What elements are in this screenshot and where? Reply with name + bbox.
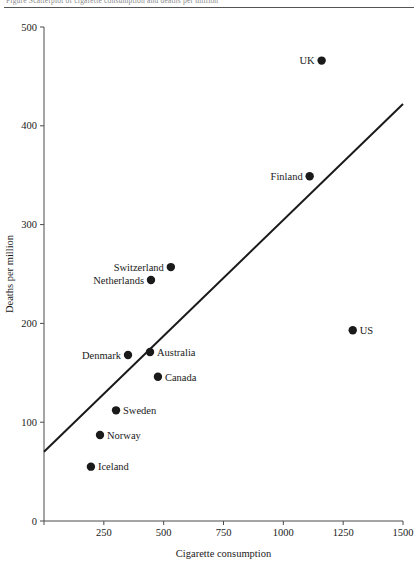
x-tick-label: 250 [96, 527, 112, 538]
figure-container: Figure Scatterplot of cigarette consumpt… [0, 0, 418, 565]
x-tick-label: 1500 [393, 527, 414, 538]
data-point-marker[interactable] [146, 348, 154, 356]
data-point-label: Netherlands [93, 275, 144, 286]
x-tick-label: 1250 [333, 527, 354, 538]
y-tick-label: 300 [21, 219, 37, 230]
data-point-marker[interactable] [112, 406, 120, 414]
data-point-marker[interactable] [147, 276, 155, 284]
x-tick-label: 750 [216, 527, 232, 538]
data-point-marker[interactable] [167, 263, 175, 271]
data-point-marker[interactable] [124, 351, 132, 359]
y-tick-label: 400 [21, 120, 37, 131]
data-point-marker[interactable] [96, 431, 104, 439]
data-point-label: Finland [271, 171, 304, 182]
scatter-plot: 0100200300400500250500750100012501500 UK… [0, 0, 418, 565]
y-tick-label: 500 [21, 22, 37, 33]
data-point-label: Iceland [98, 461, 130, 472]
data-point-label: Norway [107, 430, 142, 441]
data-point-label: Switzerland [114, 262, 165, 273]
x-tick-label: 1000 [273, 527, 294, 538]
data-point-marker[interactable] [87, 462, 95, 470]
data-points-group: UKFinlandSwitzerlandNetherlandsUSAustral… [82, 55, 373, 472]
data-point-label: Canada [165, 372, 197, 383]
data-point-marker[interactable] [154, 373, 162, 381]
x-axis-title: Cigarette consumption [176, 548, 272, 559]
data-point-marker[interactable] [305, 172, 313, 180]
x-tick-label: 500 [156, 527, 172, 538]
data-point-label: UK [299, 55, 315, 66]
data-point-marker[interactable] [349, 326, 357, 334]
axes-group: 0100200300400500250500750100012501500 [21, 22, 413, 539]
data-point-label: Denmark [82, 350, 122, 361]
y-axis-title: Deaths per million [4, 234, 15, 313]
data-point-label: US [360, 325, 374, 336]
data-point-label: Australia [157, 347, 196, 358]
data-point-label: Sweden [123, 405, 157, 416]
y-tick-label: 100 [21, 417, 37, 428]
y-tick-label: 200 [21, 318, 37, 329]
data-point-marker[interactable] [317, 56, 325, 64]
y-tick-label: 0 [32, 516, 37, 527]
